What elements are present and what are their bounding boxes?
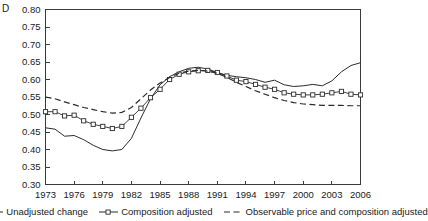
y-tick-label: 0.50 [22, 109, 41, 120]
series-marker [110, 126, 114, 130]
series-marker [311, 93, 315, 97]
series-marker [91, 122, 95, 126]
y-tick-label: 0.55 [22, 91, 41, 102]
x-tick-label: 1979 [92, 189, 113, 200]
series-marker [272, 87, 276, 91]
series-line-2 [46, 70, 361, 113]
legend-entry-1[interactable]: Composition adjusted [99, 207, 212, 217]
y-tick-label: 0.75 [22, 21, 41, 32]
series-marker [158, 87, 162, 91]
x-tick-label: 1982 [121, 189, 142, 200]
x-tick-label: 1997 [264, 189, 285, 200]
legend-entry-0[interactable]: Unadjusted change [0, 207, 88, 217]
series-marker [292, 92, 296, 96]
series-marker [82, 119, 86, 123]
y-tick-label: 0.65 [22, 56, 41, 67]
series-marker [53, 110, 57, 114]
chart-legend: Unadjusted changeComposition adjustedObs… [0, 203, 412, 221]
x-tick-label: 2000 [293, 189, 314, 200]
x-axis-ticks: 1973197619791982198519881991199419972000… [35, 181, 371, 200]
legend-label: Unadjusted change [6, 207, 88, 217]
x-tick-label: 2006 [350, 189, 371, 200]
series-line-0 [46, 63, 361, 151]
legend-label: Observable price and composition adjuste… [246, 207, 428, 217]
y-tick-label: 0.80 [22, 4, 41, 15]
y-tick-label: 0.45 [22, 126, 41, 137]
legend-swatch-icon [0, 207, 3, 217]
y-tick-label: 0.70 [22, 39, 41, 50]
series-marker [62, 114, 66, 118]
series-marker [129, 115, 133, 119]
series-marker [72, 113, 76, 117]
y-tick-label: 0.35 [22, 161, 41, 172]
x-tick-label: 1991 [207, 189, 228, 200]
series-marker [120, 124, 124, 128]
series-marker [139, 106, 143, 110]
series-layer [43, 63, 362, 151]
series-marker [253, 82, 257, 86]
series-marker [282, 91, 286, 95]
series-marker [244, 80, 248, 84]
series-marker [225, 74, 229, 78]
series-marker [234, 78, 238, 82]
x-tick-label: 1988 [178, 189, 199, 200]
y-tick-label: 0.40 [22, 144, 41, 155]
series-line-1 [46, 70, 361, 128]
legend-swatch-icon [224, 207, 243, 217]
y-tick-label: 0.60 [22, 74, 41, 85]
x-tick-label: 1973 [35, 189, 56, 200]
series-marker [330, 91, 334, 95]
series-marker [43, 110, 47, 114]
legend-entry-2[interactable]: Observable price and composition adjuste… [224, 207, 428, 217]
x-tick-label: 1994 [235, 189, 256, 200]
x-tick-label: 1985 [149, 189, 170, 200]
series-marker [301, 93, 305, 97]
series-marker [263, 85, 267, 89]
series-marker [358, 93, 362, 97]
x-tick-label: 2003 [321, 189, 342, 200]
x-tick-label: 1976 [64, 189, 85, 200]
series-marker [349, 92, 353, 96]
series-marker [101, 124, 105, 128]
series-marker [320, 92, 324, 96]
series-marker [148, 96, 152, 100]
line-chart-plot: 0.300.350.400.450.500.550.600.650.700.75… [0, 0, 412, 205]
legend-label: Composition adjusted [121, 207, 212, 217]
legend-swatch-icon [99, 207, 118, 217]
series-marker [339, 89, 343, 93]
